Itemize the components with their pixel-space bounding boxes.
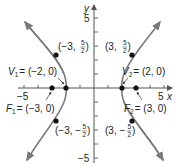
v2-leader-arrow	[123, 78, 128, 84]
svg-text:): )	[87, 125, 90, 136]
label-3-neg5half: (3, − 5 2 )	[105, 123, 135, 138]
y-tick-label-5: 5	[84, 13, 90, 24]
label-neg3-neg5half: (−3, − 5 2 )	[55, 123, 90, 138]
svg-text:5: 5	[81, 39, 85, 46]
f1-label: F1= (−3, 0)	[6, 103, 55, 115]
x-tick-label-neg5: −5	[17, 91, 29, 102]
svg-text:): )	[132, 125, 135, 136]
svg-text:5: 5	[123, 39, 127, 46]
point-neg3-pos5half	[53, 52, 58, 57]
point-3-pos5half	[129, 52, 134, 57]
svg-text:2: 2	[128, 131, 132, 138]
svg-text:2: 2	[81, 47, 85, 54]
f2-leader-arrow	[137, 92, 142, 100]
label-neg3-pos5half: (−3, 5 2 )	[58, 39, 89, 54]
v1-leader-arrow	[58, 78, 64, 84]
svg-text:5: 5	[128, 123, 132, 130]
focus-f1-point	[49, 85, 54, 90]
svg-text:): )	[128, 41, 131, 52]
svg-text:(−3,: (−3,	[58, 41, 76, 52]
x-tick-label-5: 5	[158, 91, 164, 102]
hyperbola-figure: −5 5 x y 5 −5	[0, 0, 178, 167]
svg-text:5: 5	[83, 123, 87, 130]
svg-text:2: 2	[83, 131, 87, 138]
focus-f2-point	[133, 85, 138, 90]
svg-text:2: 2	[123, 47, 127, 54]
vertex-v2-point	[119, 85, 124, 90]
v2-label: V2= (2, 0)	[122, 66, 165, 78]
v1-label: V1= (−2, 0)	[8, 66, 57, 78]
x-axis-label: x	[166, 91, 173, 102]
y-axis: y 5 −5	[78, 3, 98, 164]
vertex-v1-point	[63, 85, 68, 90]
svg-text:(3,: (3,	[105, 41, 117, 52]
label-3-pos5half: (3, 5 2 )	[105, 39, 131, 54]
svg-text:(3, −: (3, −	[105, 125, 125, 136]
f2-label: F2= (3, 0)	[124, 103, 167, 115]
svg-text:): )	[86, 41, 89, 52]
y-tick-label-neg5: −5	[78, 153, 90, 164]
x-axis: −5 5 x	[17, 85, 173, 102]
point-neg3-neg5half	[53, 118, 58, 123]
svg-text:(−3, −: (−3, −	[55, 125, 81, 136]
f1-leader-arrow	[46, 92, 51, 100]
